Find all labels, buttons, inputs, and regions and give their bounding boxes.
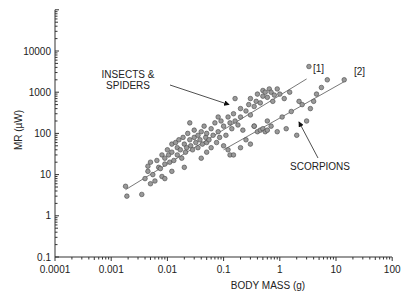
data-point xyxy=(308,106,313,111)
data-point xyxy=(163,162,168,167)
data-point xyxy=(224,133,229,138)
y-tick-labels: 0.1110100100010000 xyxy=(23,46,51,263)
x-tick-label: 0.001 xyxy=(99,264,124,275)
regression-lines xyxy=(126,79,346,190)
data-point xyxy=(204,131,209,136)
data-point xyxy=(209,126,214,131)
y-tick-label: 10 xyxy=(40,169,52,180)
data-point xyxy=(172,158,177,163)
insects-spiders-label: INSECTS & xyxy=(102,69,155,80)
insects-spiders-label: SPIDERS xyxy=(106,80,150,91)
data-point xyxy=(314,92,319,97)
arrow-icon xyxy=(170,85,229,105)
data-point xyxy=(244,137,249,142)
data-point xyxy=(165,147,170,152)
data-point xyxy=(255,92,260,97)
line-label-1: [1] xyxy=(313,63,324,74)
data-point xyxy=(178,147,183,152)
data-points xyxy=(123,64,346,198)
data-point xyxy=(325,77,330,82)
data-point xyxy=(231,111,236,116)
data-point xyxy=(241,128,246,133)
data-point xyxy=(307,64,312,69)
data-point xyxy=(263,90,268,95)
x-tick-label: 0.01 xyxy=(158,264,178,275)
y-axis-label: MR (µW) xyxy=(13,110,24,150)
data-point xyxy=(175,153,180,158)
data-point xyxy=(221,124,226,129)
data-point xyxy=(270,99,275,104)
data-point xyxy=(275,87,280,92)
data-point xyxy=(311,99,316,104)
data-point xyxy=(155,158,160,163)
data-point xyxy=(199,156,204,161)
data-point xyxy=(289,109,294,114)
data-point xyxy=(192,128,197,133)
scatter-chart: 0.1110100100010000 0.00010.0010.010.1110… xyxy=(0,0,407,302)
data-point xyxy=(179,156,184,161)
data-point xyxy=(258,101,263,106)
data-point xyxy=(248,96,253,101)
data-point xyxy=(198,137,203,142)
data-point xyxy=(252,124,257,129)
data-point xyxy=(252,104,257,109)
data-point xyxy=(236,123,241,128)
data-point xyxy=(228,121,233,126)
data-point xyxy=(294,133,299,138)
x-axis-label: BODY MASS (g) xyxy=(231,280,305,291)
data-point xyxy=(200,142,205,147)
data-point xyxy=(265,95,270,100)
data-point xyxy=(193,140,198,145)
data-point xyxy=(207,137,212,142)
data-point xyxy=(275,129,280,134)
data-point xyxy=(196,145,201,150)
data-point xyxy=(139,192,144,197)
data-point xyxy=(221,144,226,149)
x-tick-label: 0.1 xyxy=(217,264,231,275)
y-tick-label: 1000 xyxy=(29,87,52,98)
data-point xyxy=(304,119,309,124)
data-point xyxy=(284,126,289,131)
data-point xyxy=(233,119,238,124)
data-point xyxy=(272,93,277,98)
data-point xyxy=(265,119,270,124)
data-point xyxy=(209,145,214,150)
data-point xyxy=(246,102,251,107)
data-point xyxy=(342,77,347,82)
data-point xyxy=(170,150,175,155)
data-point xyxy=(238,115,243,120)
data-point xyxy=(123,184,128,189)
data-point xyxy=(216,129,221,134)
data-point xyxy=(170,169,175,174)
data-point xyxy=(148,160,153,165)
data-point xyxy=(248,113,253,118)
x-tick-label: 0.0001 xyxy=(40,264,71,275)
x-tick-labels: 0.00010.0010.010.1110100 xyxy=(40,264,401,275)
data-point xyxy=(204,150,209,155)
data-point xyxy=(287,90,292,95)
data-point xyxy=(216,115,221,120)
data-point xyxy=(248,142,253,147)
scorpions-label: SCORPIONS xyxy=(290,161,350,172)
data-point xyxy=(153,179,158,184)
data-point xyxy=(214,140,219,145)
data-point xyxy=(177,137,182,142)
x-tick-label: 1 xyxy=(277,264,283,275)
data-point xyxy=(219,119,224,124)
data-point xyxy=(230,126,235,131)
data-point xyxy=(300,102,305,107)
y-tick-label: 0.1 xyxy=(37,252,51,263)
data-point xyxy=(158,166,163,171)
data-point xyxy=(185,131,190,136)
y-tick-label: 1 xyxy=(45,210,51,221)
y-tick-label: 10000 xyxy=(23,46,51,57)
data-point xyxy=(233,96,238,101)
data-point xyxy=(146,169,151,174)
data-point xyxy=(269,124,274,129)
data-point xyxy=(163,176,168,181)
data-point xyxy=(217,135,222,140)
data-point xyxy=(319,85,324,90)
data-point xyxy=(244,109,249,114)
data-point xyxy=(187,137,192,142)
data-point xyxy=(211,133,216,138)
